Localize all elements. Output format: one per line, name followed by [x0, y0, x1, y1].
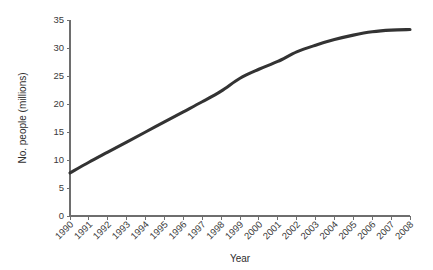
- y-axis-title: No. people (millions): [17, 72, 28, 163]
- line-chart-figure: 05101520253035 1990199119921993199419951…: [0, 0, 433, 270]
- y-tick-label: 30: [53, 42, 64, 53]
- y-tick-label: 0: [59, 210, 64, 221]
- y-tick-label: 35: [53, 14, 64, 25]
- chart-canvas: 05101520253035 1990199119921993199419951…: [0, 0, 433, 270]
- y-tick-label: 15: [53, 126, 64, 137]
- y-tick-label: 10: [53, 154, 64, 165]
- x-axis-title: Year: [230, 253, 251, 264]
- y-tick-label: 25: [53, 70, 64, 81]
- y-tick-label: 20: [53, 98, 64, 109]
- y-tick-label: 5: [59, 182, 64, 193]
